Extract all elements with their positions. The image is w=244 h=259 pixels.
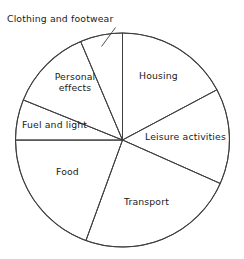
pie-chart: Clothing and footwear Housing Leisure ac… <box>0 0 244 259</box>
pie-label-transport: Transport <box>124 196 169 207</box>
pie-label-personal-effects-line1: Personal <box>55 71 96 82</box>
pie-label-housing: Housing <box>139 70 178 81</box>
pie-label-clothing-and-footwear: Clothing and footwear <box>7 13 113 24</box>
pie-label-leisure-activities: Leisure activities <box>145 131 226 142</box>
pie-label-personal-effects-line2: effects <box>59 82 92 93</box>
pie-label-personal-effects: Personaleffects <box>46 71 104 93</box>
pie-label-food: Food <box>56 166 79 177</box>
pie-label-fuel-and-light: Fuel and light <box>22 119 87 130</box>
